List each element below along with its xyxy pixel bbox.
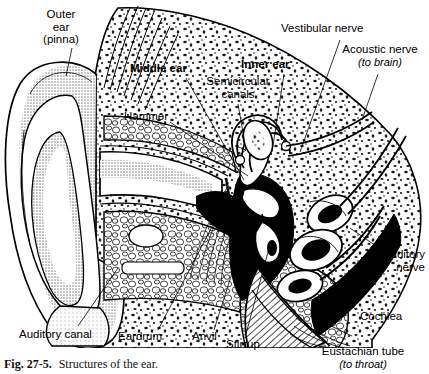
label-acoustic-nerve-main: Acoustic nerve: [342, 43, 417, 55]
label-middle-ear: Middle ear: [130, 62, 187, 75]
label-acoustic-nerve-sub: (to brain): [333, 56, 427, 69]
figure-caption: Fig. 27-5.Structures of the ear.: [4, 357, 158, 372]
label-acoustic-nerve: Acoustic nerve (to brain): [333, 43, 427, 68]
label-outer-ear-line3: (pinna): [43, 33, 79, 45]
label-semicircular-line2: canals: [221, 88, 254, 100]
cartilage-channel: [122, 262, 184, 274]
figure-caption-text: Structures of the ear.: [59, 357, 158, 371]
ampulla-a: [236, 156, 245, 165]
label-eustachian-tube: Eustachian tube (to throat): [300, 345, 426, 370]
label-semicircular-canals: Semicircular canals: [190, 75, 286, 100]
ear-anatomy-figure: Outer ear (pinna) Middle ear Hammer Semi…: [0, 0, 429, 374]
label-anvil: Anvil: [192, 330, 217, 343]
label-vestibular-nerve: Vestibular nerve: [281, 22, 363, 35]
label-auditory-nerve: Auditory nerve: [327, 248, 425, 273]
label-eustachian-tube-main: Eustachian tube: [322, 345, 404, 357]
label-eardrum: Eardrum: [118, 330, 162, 343]
stapes-footplate: [267, 240, 277, 256]
label-cochlea: Cochlea: [360, 310, 402, 323]
label-auditory-canal: Auditory canal: [19, 328, 92, 341]
label-outer-ear-line2: ear: [53, 21, 70, 33]
label-auditory-nerve-line2: nerve: [396, 261, 425, 273]
label-inner-ear: Inner ear: [241, 58, 290, 71]
label-eustachian-tube-sub: (to throat): [300, 358, 426, 371]
label-outer-ear: Outer ear (pinna): [12, 8, 110, 46]
cartilage-vessel: [129, 225, 163, 247]
label-hammer: Hammer: [124, 110, 168, 123]
label-stirrup: Stirrup: [226, 338, 260, 351]
label-semicircular-line1: Semicircular: [206, 75, 269, 87]
label-auditory-nerve-line1: Auditory: [383, 248, 425, 260]
label-outer-ear-line1: Outer: [47, 8, 76, 20]
figure-number: Fig. 27-5.: [4, 357, 52, 371]
